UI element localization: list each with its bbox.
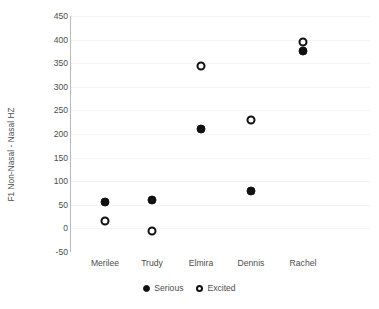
chart-legend: SeriousExcited (0, 283, 379, 293)
x-axis-tick-labels: MerileeTrudyElmiraDennisRachel (0, 0, 379, 309)
x-tick-label: Rachel (258, 258, 348, 268)
legend-item[interactable]: Excited (196, 283, 235, 293)
filled-circle-icon (143, 285, 150, 292)
scatter-chart: F1 Non-Nasal - Nasal HZ 4504003503002502… (0, 0, 379, 309)
legend-item[interactable]: Serious (143, 283, 183, 293)
legend-label: Excited (207, 283, 235, 293)
open-circle-icon (196, 285, 203, 292)
legend-label: Serious (154, 283, 183, 293)
